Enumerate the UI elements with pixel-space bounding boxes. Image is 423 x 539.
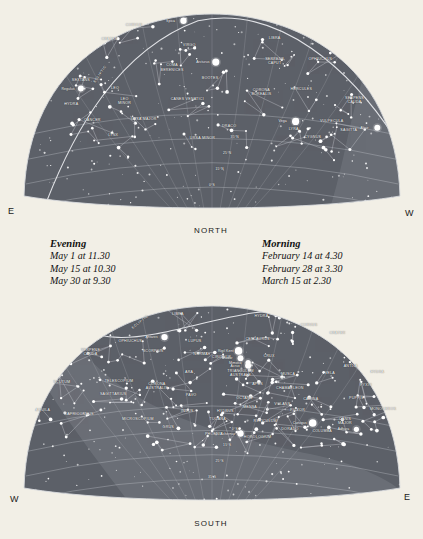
constellation-label: ARA — [185, 370, 193, 374]
constellation-label: CYGNUS — [304, 135, 321, 139]
constellation-label: TRIANGULUMAUSTRALE — [227, 369, 253, 377]
constellation-label: VULPECULA — [320, 119, 344, 123]
morning-legend-line: February 14 at 4.30 — [262, 250, 343, 263]
ecliptic-label: ECLIPTIC — [131, 314, 149, 330]
constellation-label: MENSA — [243, 405, 257, 409]
constellation-label: DRACO — [222, 124, 236, 128]
star-name-label: Canopus — [293, 421, 307, 425]
constellation-label: SAGITTA — [340, 128, 357, 132]
constellation-label: PICTOR — [290, 408, 305, 412]
constellation-label: NORMA — [193, 352, 208, 356]
constellation-label: OPHIUCHUS — [308, 57, 332, 61]
constellation-label: TUCANA — [210, 417, 226, 421]
constellation-label: CORVUS — [300, 323, 317, 327]
constellation-label: CRATER — [329, 331, 345, 335]
declination-label: 0°S — [209, 183, 215, 187]
constellation-label: INDUS — [181, 409, 193, 413]
star-name-label: Rigil Kent — [218, 349, 234, 353]
constellation-label: SCUTUM — [53, 380, 70, 384]
south-chart-west-marker: W — [10, 494, 19, 504]
morning-legend: Morning February 14 at 4.30 February 28 … — [262, 238, 343, 288]
constellation-label: PYXIS — [360, 383, 372, 387]
declination-label: 25°N — [223, 151, 231, 155]
constellation-label: LEOMINOR — [118, 97, 131, 105]
constellation-label: HOROLOGIUM — [244, 435, 271, 439]
constellation-label: CIRCINUS — [212, 355, 231, 359]
constellation-label: CRATER — [101, 37, 117, 41]
constellation-label: VOLANS — [274, 402, 290, 406]
constellation-label: CORONABOREALIS — [251, 88, 271, 96]
star-name-label: Spica — [166, 19, 175, 23]
constellation-label: HYDRA — [64, 102, 78, 106]
star-name-label: Altair — [360, 126, 368, 130]
constellation-label: PUPPIS — [349, 395, 364, 399]
star-name-label: Achernar — [220, 431, 235, 435]
constellation-label: COLUMBA — [312, 429, 332, 433]
ecliptic-label: ECLIPTIC — [92, 64, 107, 83]
north-chart-east-marker: E — [8, 206, 14, 216]
constellation-label: SERPENSCAUDA — [81, 348, 100, 356]
constellation-label: SAGITTARIUS — [100, 392, 126, 396]
south-chart-cardinal-label: SOUTH — [181, 519, 241, 528]
constellation-label: PAVO — [186, 393, 196, 397]
constellation-label: APUS — [252, 382, 263, 386]
constellation-label: CAPRICORNUS — [64, 412, 93, 416]
constellation-label: LIBRA — [172, 312, 184, 316]
morning-legend-heading: Morning — [262, 238, 343, 249]
constellation-label: HERCULES — [291, 86, 313, 90]
constellation-label: HYDRA — [254, 314, 268, 318]
star-chart-page: CORVUSCRATERVIRGOLIBRAOPHIUCHUSSERPENSCA… — [0, 0, 423, 539]
constellation-label: OCTANS — [236, 395, 252, 399]
constellation-label: COMABERENICES — [161, 63, 184, 71]
constellation-label: CANCER — [84, 118, 101, 122]
constellation-label: CENTAURUS — [245, 337, 269, 341]
evening-legend: Evening May 1 at 11.30 May 15 at 10.30 M… — [50, 238, 116, 288]
star-name-label: Regulus — [61, 86, 74, 90]
morning-legend-line: February 28 at 3.30 — [262, 263, 343, 276]
constellation-label: SERPENSCAPUT — [265, 57, 284, 65]
constellation-label: MONOCEROS — [370, 407, 396, 411]
constellation-label: HYDRA — [370, 370, 384, 374]
constellation-label: MICROSCOPIUM — [122, 417, 154, 421]
constellation-label: PHOENIX — [205, 431, 223, 435]
evening-legend-line: May 15 at 10.30 — [50, 263, 116, 276]
constellation-label: BOÖTES — [202, 76, 218, 80]
declination-label: 15°S — [223, 443, 231, 447]
constellation-label: CORVUS — [126, 23, 143, 27]
north-chart-cardinal-label: NORTH — [181, 226, 241, 235]
constellation-label: SCORPIUS — [143, 349, 164, 353]
constellation-label: CRUX — [263, 354, 274, 358]
evening-legend-heading: Evening — [50, 238, 116, 249]
north-chart-west-marker: W — [405, 208, 414, 218]
northern-sky-chart: CORVUSCRATERVIRGOLIBRAOPHIUCHUSSERPENSCA… — [22, 8, 402, 220]
star-name-label: Adhara — [338, 427, 350, 431]
constellation-label: SERPENSCAUDA — [345, 96, 364, 104]
constellation-label: DORADO — [281, 427, 298, 431]
star-name-label: Hadar — [223, 356, 233, 360]
constellation-label: LEO — [111, 85, 119, 89]
morning-legend-line: March 15 at 2.30 — [262, 275, 343, 288]
evening-legend-line: May 30 at 9.30 — [50, 275, 116, 288]
declination-label: 35°N — [231, 135, 239, 139]
constellation-label: CARINA — [303, 396, 318, 400]
constellation-label: CORONAAUSTRALIS — [146, 382, 168, 390]
declination-label: 35°S — [208, 475, 216, 479]
constellation-label: CANES VENATICI — [171, 97, 204, 101]
star-name-label: Acrux — [231, 364, 240, 368]
star-name-label: Arcturus — [196, 60, 209, 64]
constellation-label: LYRA — [289, 127, 299, 131]
star-name-label: Antares — [145, 335, 157, 339]
constellation-label: URSA MINOR — [190, 136, 215, 140]
constellation-label: OPHIUCHUS — [118, 339, 142, 343]
constellation-label: GRUS — [163, 425, 174, 429]
evening-legend-line: May 1 at 11.30 — [50, 250, 116, 263]
constellation-label: MUSCA — [281, 372, 295, 376]
constellation-label: LIBRA — [269, 36, 281, 40]
constellation-label: VELA — [325, 371, 335, 375]
constellation-label: LUPUS — [188, 339, 201, 343]
constellation-label: AQUILA — [36, 408, 51, 412]
constellation-label: LYNX — [108, 133, 118, 137]
southern-sky-chart: LIBRAHYDRACORVUSCRATEROPHIUCHUSLUPUSCENT… — [22, 300, 402, 512]
constellation-label: VIRGO — [183, 43, 196, 47]
declination-label: 0°S — [232, 427, 238, 431]
